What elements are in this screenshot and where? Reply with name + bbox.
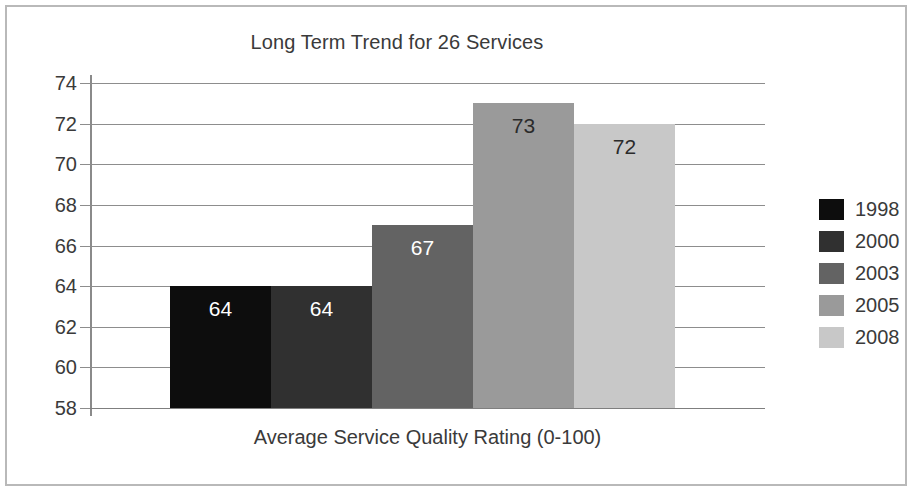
y-axis-tick-label: 60	[37, 357, 77, 377]
y-axis-tick-label: 62	[37, 317, 77, 337]
y-axis-tick	[80, 164, 90, 165]
legend-item[interactable]: 2008	[819, 321, 914, 353]
legend-label: 2000	[855, 231, 900, 251]
legend-item[interactable]: 1998	[819, 193, 914, 225]
y-axis-tick-label: 74	[37, 73, 77, 93]
legend-item[interactable]: 2000	[819, 225, 914, 257]
bar[interactable]: 73	[473, 103, 574, 408]
legend-item[interactable]: 2003	[819, 257, 914, 289]
bar[interactable]: 67	[372, 225, 473, 408]
chart-title: Long Term Trend for 26 Services	[7, 31, 787, 54]
chart-figure: Long Term Trend for 26 Services 74727068…	[5, 5, 907, 486]
y-axis-tick	[80, 327, 90, 328]
gridline	[90, 83, 765, 84]
y-axis-tick-labels: 747270686664626058	[22, 7, 77, 493]
bar-value-label: 72	[574, 136, 675, 157]
legend-item[interactable]: 2005	[819, 289, 914, 321]
bar-value-label: 73	[473, 115, 574, 136]
y-axis-tick	[80, 367, 90, 368]
legend-swatch	[819, 263, 844, 284]
plot-area: 6464677372	[90, 83, 765, 408]
legend-label: 2003	[855, 263, 900, 283]
y-axis-tick	[80, 124, 90, 125]
y-axis-tick-label: 66	[37, 236, 77, 256]
legend-swatch	[819, 327, 844, 348]
y-axis-tick-label: 72	[37, 114, 77, 134]
bar[interactable]: 64	[271, 286, 372, 408]
y-axis-tick	[80, 408, 90, 409]
y-axis-tick-label: 58	[37, 398, 77, 418]
legend-swatch	[819, 199, 844, 220]
bar-value-label: 64	[271, 298, 372, 319]
legend-label: 1998	[855, 199, 900, 219]
bar-value-label: 67	[372, 237, 473, 258]
legend-swatch	[819, 295, 844, 316]
y-axis-tick	[80, 246, 90, 247]
y-axis-tick-label: 70	[37, 154, 77, 174]
bar-value-label: 64	[170, 298, 271, 319]
x-axis-label: Average Service Quality Rating (0-100)	[90, 426, 765, 449]
y-axis-tick	[80, 205, 90, 206]
bar[interactable]: 64	[170, 286, 271, 408]
y-axis-tick-label: 64	[37, 276, 77, 296]
y-axis-tick	[80, 286, 90, 287]
y-axis-tick-label: 68	[37, 195, 77, 215]
y-axis-tick	[80, 83, 90, 84]
legend-label: 2005	[855, 295, 900, 315]
legend-swatch	[819, 231, 844, 252]
bar[interactable]: 72	[574, 124, 675, 408]
chart-legend: 19982000200320052008	[819, 193, 914, 353]
gridline	[90, 408, 765, 409]
legend-label: 2008	[855, 327, 900, 347]
